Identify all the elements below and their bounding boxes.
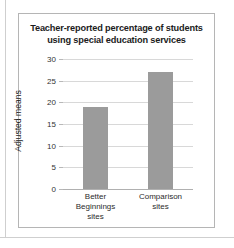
bar-1 [148,72,173,189]
y-tick-mark-30 [59,59,63,60]
gridline-20 [63,102,193,103]
y-tick-mark-25 [59,81,63,82]
gridline-30 [63,59,193,60]
y-tick-mark-0 [59,189,63,190]
y-tick-label-25: 25 [47,76,56,85]
plot-area: 051015202530BetterBeginningssitesCompari… [63,59,193,189]
y-tick-label-0: 0 [52,185,56,194]
y-tick-label-30: 30 [47,55,56,64]
x-category-label-line: Better [63,192,128,202]
y-tick-label-10: 10 [47,141,56,150]
bar-0 [83,107,108,189]
chart-figure-frame: Teacher-reported percentage of students … [18,13,215,228]
y-tick-mark-10 [59,146,63,147]
y-tick-label-5: 5 [52,163,56,172]
x-category-label-line: Comparison [128,192,193,202]
x-category-label-line: sites [63,212,128,222]
page-edge-left-rule [5,0,6,238]
y-tick-mark-20 [59,102,63,103]
y-tick-mark-15 [59,124,63,125]
chart-title: Teacher-reported percentage of students … [25,23,208,46]
y-tick-label-15: 15 [47,120,56,129]
x-category-label-line: Beginnings [63,202,128,212]
x-category-label-line: sites [128,202,193,212]
page-edge-bottom-rule [0,237,234,238]
chart-title-line-1: Teacher-reported percentage of students [25,23,208,35]
y-axis-title: Adjusted means [13,90,23,152]
x-category-label-1: Comparisonsites [128,192,193,212]
gridline-0 [63,189,193,190]
x-category-label-0: BetterBeginningssites [63,192,128,222]
chart-title-line-2: using special education services [25,35,208,47]
y-tick-label-20: 20 [47,98,56,107]
gridline-25 [63,81,193,82]
y-tick-mark-5 [59,167,63,168]
